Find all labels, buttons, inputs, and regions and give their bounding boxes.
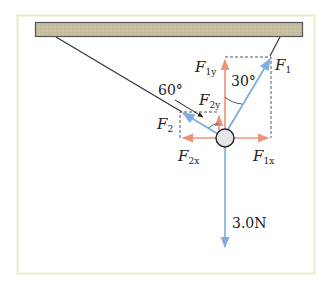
ceiling	[36, 23, 303, 37]
ball	[216, 129, 234, 147]
label-weight: 3.0N	[232, 215, 267, 231]
diagram-frame	[18, 16, 315, 274]
force-diagram: F1y F1 30° 60° F2y F2 F2x F1x 3.0N	[0, 0, 329, 294]
label-angle-60: 60°	[158, 82, 183, 98]
label-angle-30: 30°	[231, 73, 256, 89]
